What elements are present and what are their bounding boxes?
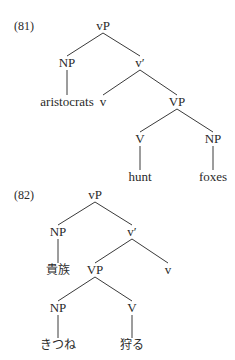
tree-branch bbox=[140, 70, 177, 95]
tree-branch bbox=[132, 239, 168, 263]
tree-node-v: V bbox=[127, 301, 136, 315]
tree-node-vp: vP bbox=[88, 188, 102, 202]
tree-branch bbox=[95, 277, 132, 301]
tree-branch bbox=[58, 277, 95, 301]
tree-branch bbox=[103, 70, 140, 95]
tree-node-foxes: foxes bbox=[199, 170, 227, 184]
tree-branch bbox=[58, 202, 95, 225]
tree-node-np2: NP bbox=[205, 132, 222, 146]
tree-node-vbar: v′ bbox=[127, 225, 136, 239]
tree-branch bbox=[177, 109, 213, 132]
tree-node-vp: VP bbox=[169, 95, 186, 109]
tree-node-vp: vP bbox=[96, 19, 110, 33]
syntax-tree-figure: (81)vPNPv′aristocratsvVPVNPhuntfoxes(82)… bbox=[0, 0, 235, 360]
tree-node-hunt: hunt bbox=[128, 170, 151, 184]
tree-node-kizoku: 貴族 bbox=[46, 263, 70, 277]
tree-node-np2: NP bbox=[50, 301, 67, 315]
tree-node-kitsune: きつね bbox=[40, 338, 76, 352]
tree-node-vp: VP bbox=[87, 263, 104, 277]
tree-branch bbox=[95, 239, 132, 263]
tree-node-v: V bbox=[135, 132, 144, 146]
tree-node-vbar: v′ bbox=[135, 56, 144, 70]
example-number: (82) bbox=[14, 188, 34, 202]
tree-branch bbox=[140, 109, 177, 132]
tree-node-karu: 狩る bbox=[120, 338, 144, 352]
tree-branch bbox=[95, 202, 132, 225]
tree-node-v: v bbox=[100, 95, 107, 109]
tree-branch bbox=[103, 33, 140, 56]
tree-node-np1: NP bbox=[50, 225, 67, 239]
tree-node-aristocrats: aristocrats bbox=[40, 95, 93, 109]
tree-branch bbox=[67, 33, 103, 56]
example-number: (81) bbox=[14, 19, 34, 33]
tree-node-np1: NP bbox=[59, 56, 76, 70]
tree-node-v: v bbox=[165, 263, 172, 277]
